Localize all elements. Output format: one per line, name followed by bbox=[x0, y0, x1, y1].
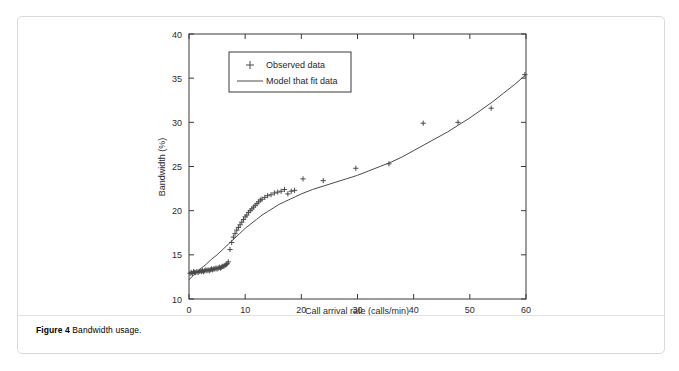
y-tick-label: 20 bbox=[172, 206, 182, 216]
data-point-marker bbox=[321, 178, 326, 183]
y-tick-label: 40 bbox=[172, 30, 182, 40]
data-point-marker bbox=[292, 188, 297, 193]
y-axis-title: Bandwidth (%) bbox=[157, 138, 167, 197]
model-fit-line bbox=[189, 75, 526, 280]
data-point-marker bbox=[275, 190, 280, 195]
bandwidth-usage-chart: 10152025303540 0102030405060 Bandwidth (… bbox=[18, 17, 666, 317]
data-point-marker bbox=[229, 240, 234, 245]
figure-caption-label: Figure 4 bbox=[36, 325, 70, 335]
data-point-marker bbox=[353, 166, 358, 171]
data-point-marker bbox=[227, 247, 232, 252]
y-tick-label: 35 bbox=[172, 74, 182, 84]
legend-box bbox=[229, 52, 351, 92]
data-point-marker bbox=[421, 121, 426, 126]
caption-divider bbox=[18, 315, 664, 316]
x-tick-label: 40 bbox=[409, 305, 419, 315]
y-tick-label: 30 bbox=[172, 118, 182, 128]
legend-label-observed-data: Observed data bbox=[266, 60, 325, 70]
legend-label-model-fit: Model that fit data bbox=[266, 76, 338, 86]
x-tick-label: 10 bbox=[240, 305, 250, 315]
chart-legend: Observed data Model that fit data bbox=[229, 52, 351, 92]
data-point-marker bbox=[300, 176, 305, 181]
data-point-marker bbox=[285, 191, 290, 196]
x-tick-label: 50 bbox=[465, 305, 475, 315]
y-tick-label: 25 bbox=[172, 162, 182, 172]
x-tick-label: 0 bbox=[186, 305, 191, 315]
data-point-marker bbox=[289, 189, 294, 194]
figure-card: 10152025303540 0102030405060 Bandwidth (… bbox=[17, 16, 665, 354]
x-tick-label: 60 bbox=[521, 305, 531, 315]
data-point-marker bbox=[489, 106, 494, 111]
chart-region: 10152025303540 0102030405060 Bandwidth (… bbox=[18, 17, 666, 317]
figure-caption: Figure 4 Bandwidth usage. bbox=[36, 325, 652, 335]
figure-caption-text: Bandwidth usage. bbox=[72, 325, 141, 335]
observed-data-markers bbox=[188, 72, 528, 276]
data-point-marker bbox=[522, 72, 527, 77]
y-tick-label: 15 bbox=[172, 250, 182, 260]
y-tick-label: 10 bbox=[172, 295, 182, 305]
model-fit-polyline bbox=[189, 75, 526, 280]
